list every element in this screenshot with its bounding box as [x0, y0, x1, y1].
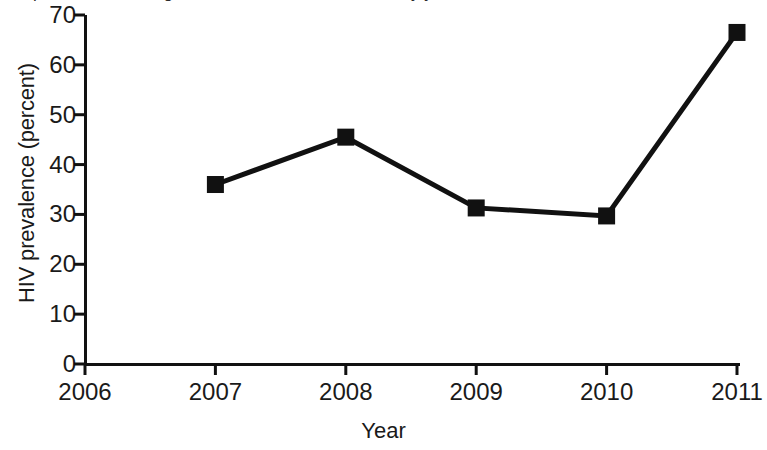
data-point-marker: [468, 199, 485, 216]
data-point-marker: [729, 24, 746, 41]
data-point-marker: [337, 129, 354, 146]
data-point-marker: [207, 176, 224, 193]
data-point-marker: [598, 207, 615, 224]
data-series: [207, 24, 746, 224]
axes: [74, 15, 740, 375]
series-line: [215, 32, 737, 216]
chart-figure: HIV prevalence among men who have sex wi…: [0, 0, 767, 450]
series-markers: [207, 24, 746, 224]
y-axis-ticks: [74, 15, 85, 364]
plot-area: [0, 0, 767, 450]
